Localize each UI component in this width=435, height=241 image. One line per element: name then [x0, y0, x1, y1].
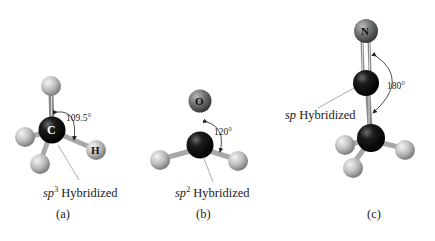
hybridization-prefix: sp — [43, 186, 54, 200]
hybridization-label-c: sp Hybridized — [285, 109, 355, 122]
atom-label-oxygen: O — [195, 96, 204, 107]
panel-c-molecule — [318, 19, 415, 178]
hybridization-figure: C H O N 109.5° 120° 180° sp3 Hybridized … — [0, 0, 435, 241]
triple-bond — [369, 40, 370, 72]
hydrogen-atom — [41, 76, 61, 96]
hybridization-suffix: Hybridized — [296, 108, 355, 122]
hydrogen-atom — [15, 127, 35, 147]
carbon-atom — [357, 124, 385, 152]
bond-angle-a: 109.5° — [66, 114, 91, 124]
panel-caption-b: (b) — [196, 208, 211, 221]
hybridization-label-a: sp3 Hybridized — [43, 187, 117, 200]
hybridization-prefix: sp — [285, 108, 296, 122]
hydrogen-atom — [343, 158, 363, 178]
hybridization-suffix: Hybridized — [190, 186, 249, 200]
atom-label-hydrogen: H — [91, 145, 100, 156]
atom-label-nitrogen: N — [361, 26, 369, 37]
bond-angle-c: 180° — [387, 82, 405, 92]
carbon-atom — [187, 132, 214, 159]
leader-line — [318, 88, 354, 108]
carbon-atom — [353, 70, 379, 96]
hydrogen-atom — [150, 150, 170, 170]
hybridization-prefix: sp — [175, 186, 186, 200]
hydrogen-atom — [335, 135, 355, 155]
triple-bond — [362, 40, 363, 72]
panel-caption-c: (c) — [367, 208, 381, 221]
bond-angle-b: 120° — [214, 128, 232, 138]
panel-caption-a: (a) — [56, 208, 70, 221]
hybridization-label-b: sp2 Hybridized — [175, 187, 249, 200]
hydrogen-atom — [395, 140, 415, 160]
leader-line — [203, 156, 213, 182]
leader-line — [58, 145, 79, 180]
atom-label-carbon: C — [47, 124, 56, 136]
hydrogen-atom — [228, 151, 248, 171]
hybridization-suffix: Hybridized — [58, 186, 117, 200]
hydrogen-atom — [30, 154, 50, 174]
panel-a-molecule — [15, 76, 106, 180]
bond — [368, 95, 370, 127]
